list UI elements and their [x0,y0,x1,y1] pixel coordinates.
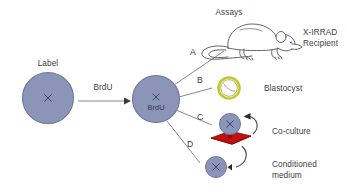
target-label-c: Co-culture [272,127,311,137]
branch-letter-c: C [197,112,203,122]
brdu-arrow-label: BrdU [83,83,123,93]
branch-line-b [179,88,212,97]
target-label-d-line2: medium [272,171,302,181]
branch-letter-b: B [197,75,203,85]
mouse-illustration-icon [202,24,302,60]
co-culture-feeder-icon [211,114,251,145]
brdu-cell-circle [133,76,180,123]
brdu-cell-node [133,76,180,123]
brdu-cell-caption: BrdU [126,103,186,113]
assays-header: Assays [205,8,253,18]
target-label-a-line2: Recipient [303,39,338,49]
conditioned-medium-cell-icon [206,157,227,178]
label-cell-node [23,73,74,124]
target-label-d-line1: Conditioned [272,160,317,170]
label-cell-caption: Label [26,59,70,69]
target-label-b: Blastocyst [264,84,302,94]
branch-letter-d: D [187,139,193,149]
branch-letter-a: A [190,47,196,57]
brdu-arrow-icon [78,98,131,105]
branch-line-d [167,121,200,163]
co-culture-arrow-icon [244,113,258,134]
conditioned-medium-arrow-icon [228,146,247,171]
figure-canvas: Label BrdU BrdU Assays A B C D X-IRRAD R… [0,0,347,192]
target-label-a-line1: X-IRRAD [303,28,337,38]
blastocyst-ring-icon [219,78,240,99]
